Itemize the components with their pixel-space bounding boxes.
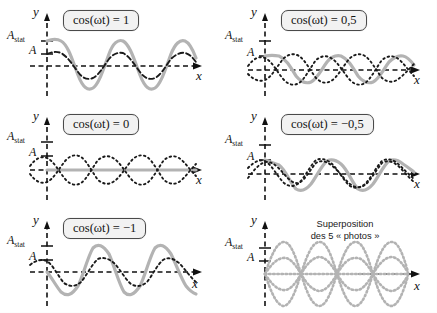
y-axis-label: y [251,212,257,228]
astat-tick-label: Astat [7,28,25,44]
standing-wave-curve [47,245,196,294]
x-axis-label: x [414,72,420,88]
a-tick-label: A [29,145,36,160]
astat-tick-label: Astat [225,235,243,251]
y-axis-arrow [44,117,50,125]
x-axis-label: x [192,276,198,292]
standing-wave-curve [265,55,414,83]
panel-cos-0: y x Astat A cos(ωt) = 0 [0,104,218,208]
panel-superposition: y x Astat A Superposition des 5 « photos… [218,208,436,312]
formula-box-cos-0: cos(ωt) = 0 [63,114,139,135]
a-tick-label: A [29,249,36,264]
a-tick-label: A [247,250,254,265]
y-axis-arrow [262,221,268,229]
caption-line-1: Superposition [317,219,374,229]
a-tick-label: A [247,45,254,60]
x-axis-label: x [196,172,202,188]
y-axis-label: y [251,4,257,20]
astat-tick-label: Astat [7,129,25,145]
y-axis-arrow [262,117,268,125]
y-axis-arrow [44,221,50,229]
standing-wave-curve [47,39,196,89]
caption-line-2: des 5 « photos » [311,231,380,241]
a-tick-label: A [29,43,36,58]
formula-box-cos-0-5: cos(ωt) = 0,5 [281,10,367,31]
panel-cos-1: y x Astat A cos(ωt) = 1 [0,0,218,104]
x-axis-arrow [411,271,420,278]
panel-cos-0-5: y x Astat A cos(ωt) = 0,5 [218,0,436,104]
astat-tick-label: Astat [7,233,25,249]
formula-box-cos-minus-1: cos(ωt) = −1 [63,218,146,239]
standing-wave-figure: y x Astat A cos(ωt) = 1 y x Astat A cos(… [0,0,437,313]
y-axis-label: y [33,108,39,124]
y-axis-label: y [33,212,39,228]
formula-box-cos-minus-0-5: cos(ωt) = −0,5 [281,114,374,135]
panel-cos-minus-1: y x Astat A cos(ωt) = −1 [0,208,218,312]
x-axis-label: x [414,278,420,294]
astat-tick-label: Astat [225,132,243,148]
formula-box-cos-1: cos(ωt) = 1 [63,10,139,31]
a-tick-label: A [247,149,254,164]
x-axis-label: x [196,68,202,84]
y-axis-arrow [262,13,268,21]
superposition-caption: Superposition des 5 « photos » [280,219,410,242]
component-wave-right [248,161,414,187]
y-axis-label: y [251,108,257,124]
x-axis-label: x [414,176,420,192]
y-axis-label: y [33,4,39,20]
panel-cos-minus-0-5: y x Astat A cos(ωt) = −0,5 [218,104,436,208]
astat-tick-label: Astat [225,28,243,44]
x-axis-arrow [193,269,202,276]
y-axis-arrow [44,13,50,21]
